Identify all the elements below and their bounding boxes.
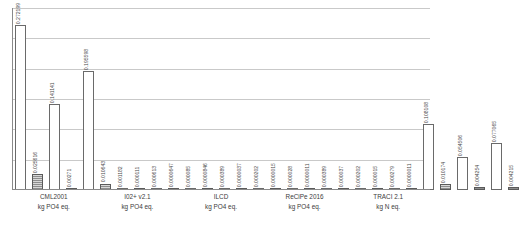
bar[interactable]: 0.077065 [491, 143, 502, 190]
bar-value-label: 0.000613 [151, 166, 156, 188]
bar-slot: 0.00271 [66, 8, 77, 190]
bar-group: 0.0011820.0001110.0006130.00006470.00008… [114, 8, 216, 190]
y-axis-line [12, 8, 13, 190]
bar-slot: 0.054506 [457, 8, 468, 190]
bar-slot: 0.000085 [185, 8, 196, 190]
bar-slot: 0.0000015 [270, 8, 281, 190]
bar-value-label: 0.141141 [49, 83, 54, 105]
bar-group: 0.2721990.0256160.1411410.002710.1955980… [12, 8, 114, 190]
bar-value-label: 0.000202 [253, 166, 258, 188]
bar[interactable]: 0.054506 [457, 157, 468, 190]
bar-slot: 0.004254 [474, 8, 485, 190]
bar-group: 0.1081080.0101740.0545060.0042540.077065… [420, 8, 522, 190]
category-label: TRACI 2.1kg N eq. [346, 192, 430, 211]
bar[interactable]: 0.195598 [83, 71, 94, 190]
bar-value-label: 0.004254 [474, 165, 479, 187]
bar-value-label: 0.054506 [457, 135, 462, 157]
category-name: CML2001 [12, 192, 96, 202]
category-unit: kg PO4 eq. [263, 202, 347, 212]
bar-value-label: 0.0000037 [236, 163, 241, 188]
bar-value-label: 0.00271 [66, 169, 71, 188]
bar-slot: 0.0000011 [406, 8, 417, 190]
bar[interactable]: 0.004254 [474, 187, 485, 190]
bar-value-label: 0.001182 [117, 166, 122, 188]
bar-value-label: 0.000037 [338, 166, 343, 188]
bar-value-label: 0.195598 [83, 49, 88, 71]
bar-value-label: 0.0000015 [270, 163, 275, 188]
category-name: I02+ v2.1 [96, 192, 180, 202]
bar-slot: 0.000015 [372, 8, 383, 190]
bar-value-label: 0.000202 [355, 166, 360, 188]
bar-slot: 0.272199 [15, 8, 26, 190]
category-axis-labels: CML2001kg PO4 eq.I02+ v2.1kg PO4 eq.ILCD… [12, 192, 430, 211]
plot-area: 0.2721990.0256160.1411410.002710.1955980… [12, 8, 430, 190]
bar[interactable]: 0.141141 [49, 104, 60, 190]
bar-groups: 0.2721990.0256160.1411410.002710.1955980… [12, 8, 430, 190]
bar-value-label: 0.010643 [100, 161, 105, 183]
bar[interactable]: 0.010174 [440, 184, 451, 190]
bar-slot: 0.000111 [134, 8, 145, 190]
bar-slot: 0.108108 [423, 8, 434, 190]
bar-slot: 0.000389 [219, 8, 230, 190]
bar-value-label: 0.272199 [15, 3, 20, 25]
bar-slot: 0.000613 [151, 8, 162, 190]
bar-slot: 0.077065 [491, 8, 502, 190]
bar-value-label: 0.108108 [423, 102, 428, 124]
bar-value-label: 0.077065 [491, 121, 496, 143]
category-name: ReCiPe 2016 [263, 192, 347, 202]
bar-value-label: 0.000015 [372, 166, 377, 188]
category-label: CML2001kg PO4 eq. [12, 192, 96, 211]
bar-slot: 0.0000011 [304, 8, 315, 190]
bar-value-label: 0.000389 [219, 166, 224, 188]
bar-slot: 0.000028 [287, 8, 298, 190]
category-unit: kg N eq. [346, 202, 430, 212]
bar-slot: 0.0000037 [236, 8, 247, 190]
bar-value-label: 0.000085 [185, 166, 190, 188]
bar-slot: 0.025616 [32, 8, 43, 190]
category-unit: kg PO4 eq. [96, 202, 180, 212]
bar-value-label: 0.0000011 [406, 163, 411, 188]
bar-slot: 0.010643 [100, 8, 111, 190]
category-name: TRACI 2.1 [346, 192, 430, 202]
bar[interactable]: 0.004215 [508, 187, 519, 190]
category-label: I02+ v2.1kg PO4 eq. [96, 192, 180, 211]
bar-slot: 0.004215 [508, 8, 519, 190]
bar-slot: 0.000279 [389, 8, 400, 190]
bar-slot: 0.0000846 [202, 8, 213, 190]
category-unit: kg PO4 eq. [12, 202, 96, 212]
x-axis-line [12, 189, 430, 190]
category-label: ReCiPe 2016kg PO4 eq. [263, 192, 347, 211]
bar-slot: 0.141141 [49, 8, 60, 190]
bar[interactable]: 0.108108 [423, 124, 434, 190]
bar-value-label: 0.010174 [440, 162, 445, 184]
bar-value-label: 0.000279 [389, 166, 394, 188]
bar-value-label: 0.000389 [321, 166, 326, 188]
bar-group: 0.0003890.00000370.0002020.00000150.0000… [216, 8, 318, 190]
bar-slot: 0.000202 [253, 8, 264, 190]
bar-value-label: 0.0000647 [168, 163, 173, 188]
bar-slot: 0.001182 [117, 8, 128, 190]
bar[interactable]: 0.272199 [15, 25, 26, 190]
category-name: ILCD [179, 192, 263, 202]
bar-slot: 0.000202 [355, 8, 366, 190]
bar-value-label: 0.004215 [508, 165, 513, 187]
bar-value-label: 0.000028 [287, 166, 292, 188]
bar-value-label: 0.0000011 [304, 163, 309, 188]
bar-slot: 0.010174 [440, 8, 451, 190]
bar-group: 0.0003890.0000370.0002020.0000150.000279… [318, 8, 420, 190]
bar-value-label: 0.0000846 [202, 163, 207, 188]
bar-slot: 0.0000647 [168, 8, 179, 190]
category-label: ILCDkg PO4 eq. [179, 192, 263, 211]
bar-value-label: 0.025616 [32, 152, 37, 174]
bar[interactable]: 0.025616 [32, 174, 43, 190]
bar-slot: 0.000037 [338, 8, 349, 190]
bar-slot: 0.000389 [321, 8, 332, 190]
category-unit: kg PO4 eq. [179, 202, 263, 212]
bar-value-label: 0.000111 [134, 167, 139, 189]
bar-slot: 0.195598 [83, 8, 94, 190]
